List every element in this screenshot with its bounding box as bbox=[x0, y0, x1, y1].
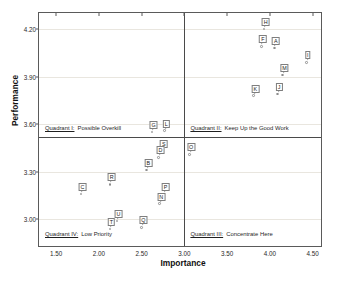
data-point-o: O bbox=[188, 152, 192, 156]
quadrant-name: Quadrant III: bbox=[190, 231, 223, 237]
data-point-label: B bbox=[144, 159, 152, 167]
data-point-marker bbox=[140, 226, 143, 229]
data-point-marker bbox=[252, 94, 255, 97]
data-point-f: F bbox=[259, 44, 263, 48]
y-tick-mark bbox=[36, 28, 39, 29]
quadrant-description: Keep Up the Good Work bbox=[225, 125, 289, 131]
x-tick-mark bbox=[56, 13, 57, 16]
quadrant-label-q1: Quadrant I:Possible Overkill bbox=[45, 125, 121, 131]
x-axis-title: Importance bbox=[40, 258, 326, 268]
data-point-c: C bbox=[79, 192, 83, 196]
data-point-marker bbox=[305, 61, 308, 64]
gridline-y-3-30 bbox=[39, 172, 321, 173]
data-point-label: O bbox=[187, 143, 195, 151]
x-tick-label: 2.50 bbox=[136, 246, 148, 257]
x-tick-mark bbox=[184, 13, 185, 16]
data-point-n: N bbox=[158, 202, 162, 206]
data-point-marker bbox=[276, 93, 279, 96]
x-tick-label: 2.00 bbox=[93, 246, 105, 257]
data-point-u: U bbox=[115, 219, 119, 223]
x-tick-mark bbox=[141, 13, 142, 16]
y-axis-title: Performance bbox=[11, 56, 20, 146]
data-point-d: D bbox=[157, 155, 161, 159]
data-point-a: A bbox=[272, 46, 276, 50]
quadrant-divider-vertical bbox=[184, 13, 185, 246]
data-point-i: I bbox=[305, 60, 309, 64]
data-point-label: P bbox=[162, 183, 170, 191]
quadrant-divider-horizontal bbox=[39, 137, 321, 138]
quadrant-description: Low Priority bbox=[81, 231, 112, 237]
data-point-k: K bbox=[252, 94, 256, 98]
quadrant-description: Concentrate Here bbox=[226, 231, 273, 237]
data-point-marker bbox=[281, 74, 284, 77]
data-point-label: J bbox=[276, 83, 283, 91]
data-point-q: Q bbox=[140, 225, 144, 229]
quadrant-label-q4: Quadrant IV:Low Priority bbox=[45, 231, 112, 237]
y-tick-mark bbox=[36, 76, 39, 77]
data-point-label: R bbox=[108, 173, 116, 181]
data-point-j: J bbox=[276, 92, 280, 96]
data-point-m: M bbox=[281, 73, 285, 77]
data-point-marker bbox=[157, 156, 160, 159]
y-tick-mark bbox=[36, 124, 39, 125]
data-point-label: C bbox=[78, 183, 86, 191]
data-point-label: Q bbox=[139, 216, 147, 224]
data-point-marker bbox=[263, 28, 266, 31]
data-point-marker bbox=[80, 193, 83, 196]
data-point-marker bbox=[116, 220, 119, 223]
data-point-marker bbox=[109, 228, 112, 231]
x-tick-label: 4.50 bbox=[307, 246, 319, 257]
data-point-label: A bbox=[272, 37, 280, 45]
data-point-marker bbox=[260, 45, 263, 48]
data-point-l: L bbox=[163, 129, 167, 133]
data-point-label: N bbox=[157, 193, 165, 201]
gridline-y-3-00 bbox=[39, 219, 321, 220]
data-point-marker bbox=[109, 183, 112, 186]
quadrant-name: Quadrant IV: bbox=[45, 231, 78, 237]
data-point-t: T bbox=[108, 227, 112, 231]
data-point-label: U bbox=[114, 210, 122, 218]
quadrant-label-q3: Quadrant III:Concentrate Here bbox=[190, 231, 272, 237]
data-point-label: D bbox=[156, 146, 164, 154]
x-tick-mark bbox=[227, 13, 228, 16]
data-point-g: G bbox=[150, 130, 154, 134]
data-point-marker bbox=[151, 131, 154, 134]
data-point-label: L bbox=[163, 120, 170, 128]
data-point-label: K bbox=[251, 85, 259, 93]
data-point-marker bbox=[273, 47, 276, 50]
x-tick-label: 4.00 bbox=[264, 246, 276, 257]
plot-inner: Quadrant I:Possible OverkillQuadrant II:… bbox=[39, 13, 321, 246]
data-point-h: H bbox=[262, 27, 266, 31]
data-point-marker bbox=[163, 129, 166, 132]
data-point-label: G bbox=[149, 121, 157, 129]
gridline-y-4-20 bbox=[39, 29, 321, 30]
quadrant-name: Quadrant I: bbox=[45, 125, 74, 131]
plot-area: Quadrant I:Possible OverkillQuadrant II:… bbox=[38, 12, 322, 247]
x-tick-mark bbox=[98, 13, 99, 16]
x-tick-label: 3.00 bbox=[178, 246, 190, 257]
data-point-marker bbox=[158, 202, 161, 205]
quadrant-name: Quadrant II: bbox=[190, 125, 221, 131]
data-point-label: H bbox=[262, 18, 270, 26]
x-tick-mark bbox=[269, 13, 270, 16]
x-tick-label: 3.50 bbox=[221, 246, 233, 257]
quadrant-label-q2: Quadrant II:Keep Up the Good Work bbox=[190, 125, 288, 131]
data-point-marker bbox=[188, 153, 191, 156]
data-point-label: F bbox=[259, 35, 266, 43]
quadrant-description: Possible Overkill bbox=[77, 125, 121, 131]
data-point-r: R bbox=[108, 182, 112, 186]
data-point-label: M bbox=[280, 64, 289, 72]
y-tick-mark bbox=[36, 219, 39, 220]
data-point-b: B bbox=[145, 168, 149, 172]
x-tick-mark bbox=[312, 13, 313, 16]
data-point-label: I bbox=[305, 51, 311, 59]
importance-performance-chart: Performance Quadrant I:Possible Overkill… bbox=[0, 0, 339, 281]
y-tick-mark bbox=[36, 171, 39, 172]
gridline-y-3-90 bbox=[39, 77, 321, 78]
data-point-marker bbox=[145, 169, 148, 172]
data-point-label: T bbox=[108, 218, 115, 226]
x-tick-label: 1.50 bbox=[50, 246, 62, 257]
